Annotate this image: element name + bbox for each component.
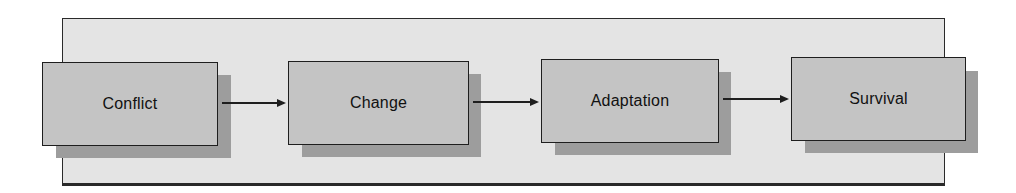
node-label: Adaptation: [591, 92, 670, 110]
arrow-adaptation-to-survival: [723, 98, 787, 100]
node-label: Conflict: [103, 95, 158, 113]
arrow-conflict-to-change: [222, 102, 284, 104]
node-adaptation: Adaptation: [541, 59, 719, 143]
node-label: Change: [350, 94, 407, 112]
arrow-change-to-adaptation: [473, 101, 537, 103]
node-label: Survival: [849, 90, 908, 108]
node-change: Change: [288, 61, 469, 145]
node-conflict: Conflict: [42, 62, 218, 146]
node-survival: Survival: [791, 57, 966, 141]
